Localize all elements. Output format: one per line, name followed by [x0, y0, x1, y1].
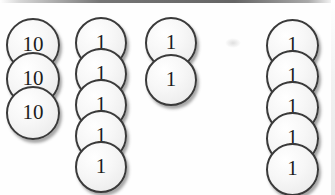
scan-right-edge	[331, 0, 335, 195]
ones-stack-c[interactable]: 11111	[266, 19, 319, 195]
ones-stack-b[interactable]: 11	[145, 17, 197, 106]
scan-top-edge	[0, 0, 335, 3]
coin[interactable]: 1	[145, 54, 197, 106]
coin-value-label: 1	[166, 69, 177, 90]
coin-value-label: 1	[166, 32, 177, 53]
coin-value-label: 10	[23, 102, 44, 123]
coin-stacks-scene: 101010111111111111	[0, 0, 335, 195]
coin[interactable]: 1	[75, 141, 127, 193]
scan-smudge	[225, 38, 241, 48]
coin-value-label: 1	[287, 158, 298, 179]
coin[interactable]: 10	[6, 86, 60, 140]
coin-value-label: 1	[96, 156, 107, 177]
ones-stack-a[interactable]: 11111	[75, 17, 127, 193]
tens-stack[interactable]: 101010	[6, 18, 60, 140]
coin[interactable]: 1	[266, 143, 319, 195]
